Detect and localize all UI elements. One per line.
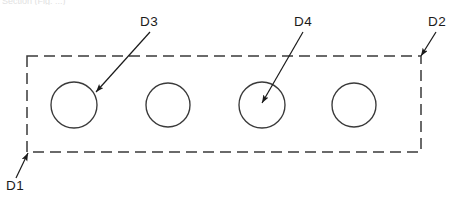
engineering-drawing-canvas: D3 D4 D2 D1: [0, 0, 460, 205]
dimension-label-d1: D1: [6, 178, 24, 193]
plate-outline-dashed-rectangle: [27, 56, 421, 152]
dimension-label-d2: D2: [428, 14, 446, 29]
hole-circle-4: [332, 83, 376, 127]
hole-circle-1: [51, 82, 97, 128]
dimension-label-d4: D4: [294, 14, 312, 29]
hole-circle-3: [239, 82, 285, 128]
leader-line-d4: [262, 32, 303, 103]
hole-circle-2: [146, 83, 190, 127]
dimension-label-d3: D3: [140, 14, 158, 29]
figure-container: Section (Fig. ...) D3 D4 D2 D1: [0, 0, 460, 205]
leader-line-d2: [421, 32, 436, 56]
leader-line-d1: [16, 153, 28, 178]
leader-line-d3: [96, 32, 150, 92]
